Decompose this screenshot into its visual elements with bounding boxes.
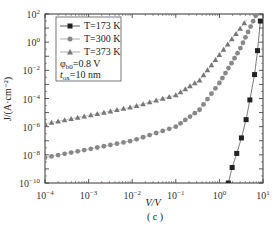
- y-tick-label: 102: [27, 8, 41, 20]
- x-tick-label: 10−2: [123, 189, 141, 201]
- y-tick-label: 10−2: [23, 64, 41, 76]
- legend-label-173: T=173 K: [84, 20, 121, 31]
- square-marker-icon: [68, 24, 73, 29]
- jv-chart: 10210010−210−410−610−810−10 10−410−310−2…: [0, 0, 277, 229]
- y-tick-label: 10−10: [19, 177, 40, 189]
- y-axis-tick-labels: 10210010−210−410−610−810−10: [19, 8, 40, 189]
- x-tick-label: 10−4: [36, 189, 54, 201]
- y-tick-label: 10−4: [23, 93, 41, 105]
- y-tick-label: 10−8: [23, 149, 41, 161]
- x-axis-title: V/V: [146, 197, 163, 208]
- y-tick-label: 100: [27, 36, 41, 48]
- y-tick-label: 10−6: [23, 121, 41, 133]
- x-tick-label: 100: [213, 189, 227, 201]
- x-tick-label: 101: [256, 189, 270, 201]
- legend-label-373: T=373 K: [84, 46, 121, 57]
- legend: T=173 K T=300 K T=373 K φb0=0.8 V tox=10…: [56, 17, 121, 82]
- y-axis-title: J/(A·cm⁻²): [2, 77, 14, 121]
- circle-marker-icon: [68, 37, 73, 42]
- legend-label-300: T=300 K: [84, 33, 121, 44]
- x-tick-label: 10−3: [80, 189, 98, 201]
- figure-caption: ( c ): [147, 211, 163, 223]
- x-tick-label: 10−1: [167, 189, 185, 201]
